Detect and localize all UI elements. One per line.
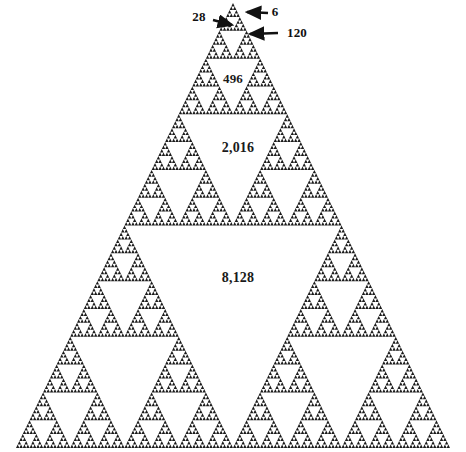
sierpinski-path <box>16 3 450 448</box>
sierpinski-figure: 496 2,016 8,128 28 6 120 <box>0 0 466 452</box>
hole-label-8128: 8,128 <box>222 270 255 286</box>
hole-label-2016: 2,016 <box>222 140 255 156</box>
hole-label-496: 496 <box>223 71 243 87</box>
callout-label-28: 28 <box>192 9 205 25</box>
sierpinski-triangle-graphic <box>0 0 466 452</box>
callout-label-6: 6 <box>272 4 279 20</box>
callout-label-120: 120 <box>287 25 307 41</box>
